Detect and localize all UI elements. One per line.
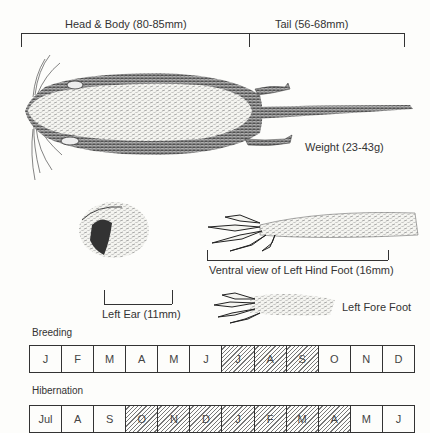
hibernation-month-cell: O (126, 406, 158, 432)
hibernation-month-cell: J (383, 406, 414, 432)
hibernation-month-cell: N (158, 406, 190, 432)
ear-bracket-right (172, 290, 173, 304)
breeding-title: Breeding (32, 327, 72, 338)
fore-foot-illustration (210, 285, 340, 325)
breeding-month-cell: D (383, 346, 414, 372)
hibernation-month-cell: M (287, 406, 319, 432)
breeding-month-cell: J (30, 346, 62, 372)
hibernation-month-cell: D (190, 406, 222, 432)
hind-foot-bracket (207, 260, 388, 261)
hibernation-month-cell: M (351, 406, 383, 432)
hibernation-month-cell: A (319, 406, 351, 432)
hibernation-title: Hibernation (32, 385, 83, 396)
breeding-month-cell: A (255, 346, 287, 372)
breeding-month-cell: M (158, 346, 190, 372)
hibernation-calendar: JulASONDJFMAMJ (29, 405, 415, 433)
breeding-month-cell: M (94, 346, 126, 372)
length-bracket (21, 33, 405, 34)
breeding-calendar: JFMAMJJASOND (29, 345, 415, 373)
breeding-month-cell: F (62, 346, 94, 372)
head-body-label: Head & Body (80-85mm) (65, 18, 187, 30)
breeding-month-cell: O (319, 346, 351, 372)
hibernation-month-cell: A (62, 406, 94, 432)
ear-label: Left Ear (11mm) (102, 308, 181, 320)
hibernation-month-cell: S (94, 406, 126, 432)
hind-foot-bracket-right (388, 250, 389, 260)
hibernation-month-cell: Jul (30, 406, 62, 432)
hind-foot-label: Ventral view of Left Hind Foot (16mm) (209, 264, 394, 276)
breeding-month-cell: N (351, 346, 383, 372)
dormouse-illustration (0, 45, 430, 195)
tail-label: Tail (56-68mm) (275, 18, 348, 30)
breeding-month-cell: S (287, 346, 319, 372)
breeding-month-cell: J (190, 346, 222, 372)
ear-bracket-left (104, 290, 105, 304)
fore-foot-label: Left Fore Foot (342, 301, 411, 313)
ear-bracket (104, 304, 172, 305)
hibernation-month-cell: J (222, 406, 254, 432)
left-ear-illustration (72, 195, 152, 275)
hind-foot-illustration (200, 195, 430, 255)
hind-foot-bracket-left (207, 250, 208, 260)
hibernation-month-cell: F (255, 406, 287, 432)
breeding-month-cell: J (222, 346, 254, 372)
weight-label: Weight (23-43g) (305, 141, 384, 153)
breeding-month-cell: A (126, 346, 158, 372)
